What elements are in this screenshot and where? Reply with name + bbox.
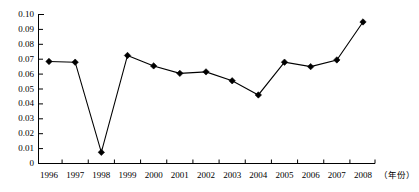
y-axis-tick-label: 0.03 <box>2 114 34 123</box>
data-line <box>49 22 363 152</box>
x-axis-title: （年份） <box>379 171 415 180</box>
data-point-marker <box>177 70 183 76</box>
y-axis-ticks <box>39 15 44 164</box>
data-point-marker <box>98 149 104 155</box>
data-point-marker <box>203 69 209 75</box>
data-point-marker <box>307 63 313 69</box>
data-point-markers <box>46 19 366 156</box>
y-axis-tick-label: 0.07 <box>2 55 34 64</box>
data-point-marker <box>229 78 235 84</box>
data-point-marker <box>72 59 78 65</box>
y-axis-tick-label: 0.04 <box>2 99 34 108</box>
data-point-marker <box>334 57 340 63</box>
x-axis-ticks <box>39 160 376 164</box>
y-axis-tick-label: 0.08 <box>2 40 34 49</box>
y-axis-tick-label: 0.10 <box>2 10 34 19</box>
data-point-marker <box>124 52 130 58</box>
y-axis-tick-label: 0.01 <box>2 144 34 153</box>
axis-lines <box>38 14 375 164</box>
y-axis-tick-label: 0.05 <box>2 85 34 94</box>
x-axis-tick-label: 2008 <box>343 171 383 180</box>
data-point-marker <box>150 63 156 69</box>
data-point-marker <box>46 58 52 64</box>
chart-plot-area <box>0 0 419 192</box>
line-chart: 00.010.020.030.040.050.060.070.080.090.1… <box>0 0 419 192</box>
y-axis-tick-label: 0 <box>2 159 34 168</box>
y-axis-tick-label: 0.09 <box>2 25 34 34</box>
data-point-marker <box>360 19 366 25</box>
y-axis-tick-label: 0.02 <box>2 129 34 138</box>
y-axis-tick-label: 0.06 <box>2 70 34 79</box>
